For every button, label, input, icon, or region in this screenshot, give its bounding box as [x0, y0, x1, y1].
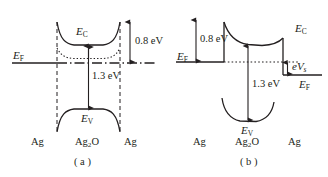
panel-b-conduction-band-curve: [224, 22, 283, 46]
panel-b-conduction-label: EC: [295, 23, 307, 35]
panel-b-bias-label: eVs: [292, 61, 307, 73]
panel-a-conduction-band-curve: [57, 22, 120, 45]
panel-b-material-center: Ag2O: [235, 137, 259, 149]
panel-b-caption: ( b ): [240, 157, 258, 168]
panel-b-gap-label: 1.3 eV: [252, 79, 280, 90]
panel-a-barrier-label: 0.8 eV: [135, 36, 163, 47]
panel-a-conduction-label: EC: [76, 26, 88, 38]
panel-a-material-left: Ag: [31, 137, 44, 148]
panel-b-fermi-label-right: EF: [299, 79, 310, 91]
panel-a-valence-label: EV: [81, 113, 93, 125]
band-diagram-figure: EF EC EV 0.8 eV 1.3 eV Ag Ag2O Ag ( a ) …: [0, 0, 328, 177]
panel-b-material-right: Ag: [288, 137, 301, 148]
panel-b-barrier-label: 0.8 eV: [200, 34, 228, 45]
panel-b-fermi-label-left: EF: [177, 51, 188, 63]
panel-a-fermi-label-left: EF: [13, 50, 24, 62]
panel-a-caption: ( a ): [74, 157, 91, 168]
panel-a-material-right: Ag: [124, 137, 137, 148]
panel-a-material-center: Ag2O: [75, 137, 99, 149]
panel-a-gap-label: 1.3 eV: [92, 71, 120, 82]
panel-b-material-left: Ag: [193, 137, 206, 148]
